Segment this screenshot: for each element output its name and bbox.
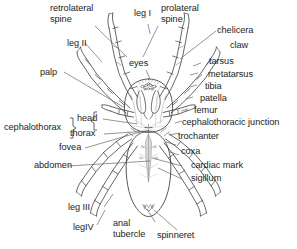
label-coxa: coxa — [181, 146, 200, 156]
label-cephalothorax: cephalothorax — [4, 122, 61, 132]
label-metatarsus: metatarsus — [208, 69, 253, 79]
label-femur: femur — [194, 105, 217, 115]
label-tarsus: tarsus — [209, 56, 234, 66]
label-abdomen: abdomen — [34, 160, 72, 170]
label-palp: palp — [40, 67, 57, 77]
label-chelicera: chelicera — [217, 25, 253, 35]
spinnerets-group — [143, 205, 154, 211]
label-spinneret: spinneret — [157, 230, 194, 240]
label-fovea: fovea — [59, 142, 81, 152]
label-leg-3: leg III — [68, 202, 90, 212]
label-trochanter: trochanter — [178, 131, 219, 141]
label-retrolateral-spine: retrolateral spine — [50, 3, 93, 24]
leg-1-left — [108, 13, 138, 100]
label-anal-tubercle: anal tubercle — [113, 218, 145, 239]
eyes-cluster — [139, 79, 160, 90]
label-eyes: eyes — [129, 58, 148, 68]
chelicerae — [137, 91, 160, 120]
label-leg-2: leg II — [67, 38, 87, 48]
label-cephalothoracic-junction: cephalothoracic junction — [182, 117, 279, 127]
label-head: head — [77, 113, 97, 123]
label-claw: claw — [230, 40, 248, 50]
label-cardiac-mark: cardiac mark — [191, 160, 243, 170]
label-prolateral-spine: prolateral spine — [161, 3, 199, 24]
label-tibia: tibia — [205, 81, 222, 91]
label-sigillum: sigillum — [191, 173, 221, 183]
leg-4-left — [91, 143, 138, 216]
label-leg-1: leg I — [134, 8, 151, 18]
label-leg-4: legIV — [73, 222, 94, 232]
leg-1-right — [160, 13, 190, 100]
abdomen-shape — [126, 131, 171, 217]
label-patella: patella — [200, 93, 227, 103]
label-thorax: thorax — [70, 128, 95, 138]
spider-anatomy-figure: retrolateral spine leg I prolateral spin… — [0, 0, 297, 249]
